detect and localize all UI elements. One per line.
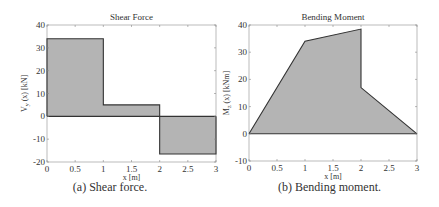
- y-tick-label: 0: [243, 129, 248, 139]
- shear-force-chart: Shear Force00.511.522.53-20-10010203040x…: [0, 0, 220, 207]
- x-tick-label: 0: [45, 164, 50, 174]
- y-tick-label: -10: [33, 134, 45, 144]
- x-tick-label: 2: [157, 164, 162, 174]
- y-tick-label: 40: [238, 20, 248, 30]
- x-tick-label: 3: [415, 163, 420, 173]
- bending-moment-figure: Bending Moment00.511.522.53-10010203040x…: [220, 0, 439, 207]
- y-tick-label: 10: [238, 102, 248, 112]
- caption-bending-moment: (b) Bending moment.: [220, 180, 439, 195]
- y-tick-label: 40: [36, 20, 46, 30]
- x-tick-label: 2.5: [383, 163, 395, 173]
- x-tick-label: 0.5: [70, 164, 82, 174]
- y-tick-label: -10: [235, 156, 247, 166]
- x-tick-label: 0: [247, 163, 252, 173]
- y-tick-label: 30: [238, 47, 248, 57]
- x-tick-label: 1: [303, 163, 308, 173]
- x-tick-label: 2.5: [182, 164, 194, 174]
- bending-moment-chart: Bending Moment00.511.522.53-10010203040x…: [220, 0, 439, 207]
- y-axis-label: Mz (x) [kNm]: [222, 70, 232, 115]
- y-tick-label: 30: [36, 43, 46, 53]
- y-tick-label: 20: [36, 66, 46, 76]
- y-tick-label: 10: [36, 89, 46, 99]
- y-axis-label: Vy (x) [kN]: [20, 75, 30, 113]
- y-tick-label: 0: [41, 111, 46, 121]
- x-tick-label: 3: [214, 164, 219, 174]
- chart-title: Shear Force: [110, 12, 153, 22]
- x-tick-label: 0.5: [271, 163, 283, 173]
- y-tick-label: 20: [238, 74, 248, 84]
- x-tick-label: 2: [359, 163, 364, 173]
- x-tick-label: 1: [101, 164, 106, 174]
- shear-force-figure: Shear Force00.511.522.53-20-10010203040x…: [0, 0, 220, 207]
- chart-title: Bending Moment: [301, 12, 365, 22]
- caption-shear-force: (a) Shear force.: [0, 180, 220, 195]
- y-tick-label: -20: [33, 157, 45, 167]
